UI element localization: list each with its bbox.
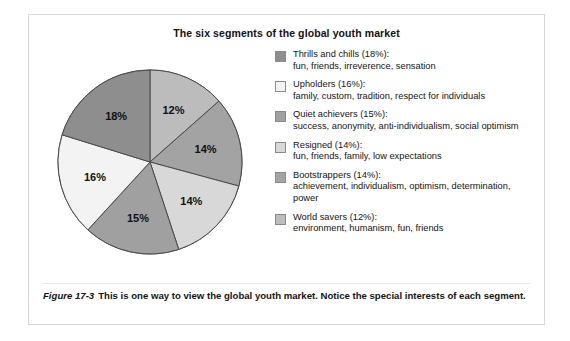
pie-slices [58, 70, 242, 254]
legend-swatch-world-savers [275, 214, 286, 225]
pie-slice-value-label: 14% [195, 143, 217, 155]
legend-desc-resigned: fun, friends, family, low expectations [293, 151, 442, 163]
legend-head-quiet-achievers: Quiet achievers (15%): [293, 109, 519, 121]
legend-swatch-quiet-achievers [275, 111, 286, 122]
legend-item-quiet-achievers[interactable]: Quiet achievers (15%): success, anonymit… [275, 109, 537, 132]
legend-head-resigned: Resigned (14%): [293, 140, 442, 152]
legend-desc-world-savers: environment, humanism, fun, friends [293, 223, 443, 235]
figure-title: The six segments of the global youth mar… [29, 27, 544, 39]
legend-desc-bootstrappers: achievement, individualism, optimism, de… [293, 181, 537, 204]
legend-label-bootstrappers: Bootstrappers (14%): achievement, indivi… [293, 170, 537, 205]
legend-head-thrills-and-chills: Thrills and chills (18%): [293, 49, 436, 61]
legend-head-bootstrappers: Bootstrappers (14%): [293, 170, 537, 182]
chart-area: 12%14%14%15%16%18% Thrills and chills (1… [29, 47, 544, 279]
legend-desc-thrills-and-chills: fun, friends, irreverence, sensation [293, 61, 436, 73]
legend-label-upholders: Upholders (16%): family, custom, traditi… [293, 79, 485, 102]
legend-item-bootstrappers[interactable]: Bootstrappers (14%): achievement, indivi… [275, 170, 537, 205]
legend: Thrills and chills (18%): fun, friends, … [275, 49, 537, 242]
legend-swatch-resigned [275, 142, 286, 153]
pie-chart-svg: 12%14%14%15%16%18% [45, 57, 255, 267]
caption-figure-number: Figure 17-3 [43, 290, 94, 301]
legend-item-thrills-and-chills[interactable]: Thrills and chills (18%): fun, friends, … [275, 49, 537, 72]
legend-item-world-savers[interactable]: World savers (12%): environment, humanis… [275, 212, 537, 235]
pie-slice-value-label: 16% [84, 171, 106, 183]
legend-item-resigned[interactable]: Resigned (14%): fun, friends, family, lo… [275, 140, 537, 163]
legend-head-world-savers: World savers (12%): [293, 212, 443, 224]
legend-swatch-thrills-and-chills [275, 51, 286, 62]
pie-slice-value-label: 15% [127, 212, 149, 224]
pie-chart: 12%14%14%15%16%18% [45, 57, 255, 267]
legend-desc-quiet-achievers: success, anonymity, anti-individualism, … [293, 121, 519, 133]
legend-label-quiet-achievers: Quiet achievers (15%): success, anonymit… [293, 109, 519, 132]
legend-label-thrills-and-chills: Thrills and chills (18%): fun, friends, … [293, 49, 436, 72]
pie-slice-value-label: 18% [105, 110, 127, 122]
legend-swatch-bootstrappers [275, 172, 286, 183]
pie-slice-value-label: 12% [162, 104, 184, 116]
legend-item-upholders[interactable]: Upholders (16%): family, custom, traditi… [275, 79, 537, 102]
legend-swatch-upholders [275, 81, 286, 92]
caption-divider [43, 283, 530, 284]
figure-caption: Figure 17-3This is one way to view the g… [43, 289, 530, 303]
caption-text: This is one way to view the global youth… [98, 290, 526, 301]
pie-slice-value-label: 14% [180, 195, 202, 207]
legend-head-upholders: Upholders (16%): [293, 79, 485, 91]
legend-desc-upholders: family, custom, tradition, respect for i… [293, 91, 485, 103]
legend-label-resigned: Resigned (14%): fun, friends, family, lo… [293, 140, 442, 163]
legend-label-world-savers: World savers (12%): environment, humanis… [293, 212, 443, 235]
figure-frame: The six segments of the global youth mar… [28, 14, 545, 325]
